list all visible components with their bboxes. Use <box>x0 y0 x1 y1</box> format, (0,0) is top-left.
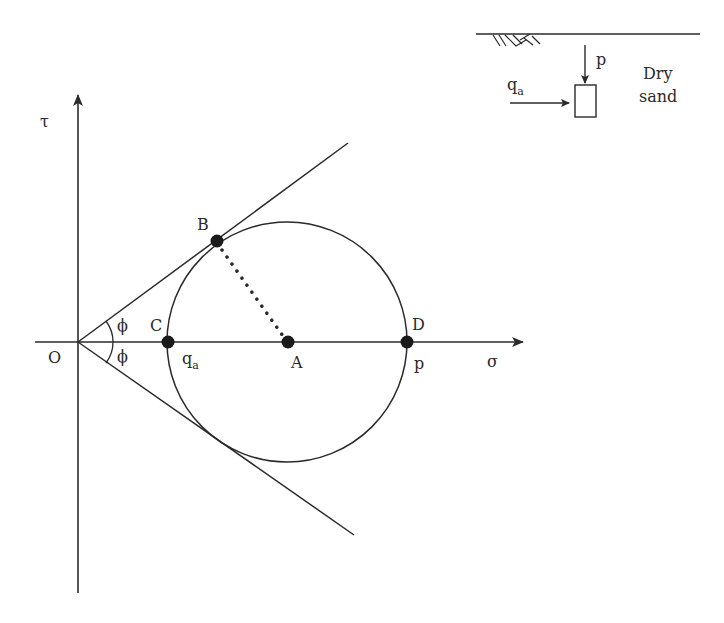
point-b <box>211 235 224 248</box>
phi-lower-label: ϕ <box>117 347 128 366</box>
soil-hatching-icon <box>493 34 540 46</box>
origin-label: O <box>48 348 61 367</box>
point-a-label: A <box>290 353 303 372</box>
horizontal-load-q: q <box>507 75 517 94</box>
point-c-label: C <box>150 316 162 335</box>
inset-soil-diagram: p qa Dry sand <box>476 34 700 117</box>
tau-label: τ <box>40 112 49 131</box>
radius-dotted-line <box>222 250 283 336</box>
vertical-load-label: p <box>596 50 606 69</box>
point-b-label: B <box>197 215 209 234</box>
point-d-label: D <box>412 315 425 334</box>
point-d <box>401 336 414 349</box>
c-value-q: q <box>182 349 192 368</box>
mohr-circle-diagram: τ σ O ϕ ϕ B C A D qa p p qa Dry sand <box>0 0 724 623</box>
horizontal-load-sub: a <box>517 85 524 98</box>
point-c <box>162 336 175 349</box>
point-a <box>282 336 295 349</box>
soil-label-line1: Dry <box>643 64 673 83</box>
phi-upper-label: ϕ <box>117 316 128 335</box>
c-value-sub: a <box>192 359 199 372</box>
d-value-label: p <box>414 354 424 373</box>
c-value-label: qa <box>182 349 199 372</box>
sigma-label: σ <box>487 352 498 371</box>
soil-label-line2: sand <box>639 87 677 106</box>
footing-block <box>575 85 596 117</box>
horizontal-load-label: qa <box>507 75 524 98</box>
